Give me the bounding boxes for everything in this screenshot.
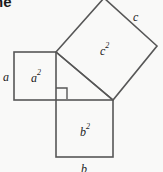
label-area-a: a2 bbox=[31, 69, 41, 85]
label-side-b: b bbox=[81, 160, 87, 172]
right-angle-marker-icon bbox=[56, 88, 67, 99]
pythagorean-diagram-canvas: ne a a2 b2 b c2 c bbox=[0, 0, 163, 172]
triangle-hypotenuse bbox=[56, 52, 113, 100]
label-area-b: b2 bbox=[80, 123, 90, 139]
label-area-c: c2 bbox=[100, 42, 109, 58]
label-side-a-text: a bbox=[3, 70, 9, 84]
label-side-c: c bbox=[133, 8, 138, 24]
label-side-b-text: b bbox=[81, 162, 87, 172]
label-area-b-exponent: 2 bbox=[86, 122, 90, 131]
pythagorean-figure bbox=[0, 0, 163, 172]
label-area-a-exponent: 2 bbox=[37, 68, 41, 77]
label-side-a: a bbox=[3, 68, 9, 84]
label-side-c-text: c bbox=[133, 10, 138, 24]
label-area-c-exponent: 2 bbox=[105, 41, 109, 50]
